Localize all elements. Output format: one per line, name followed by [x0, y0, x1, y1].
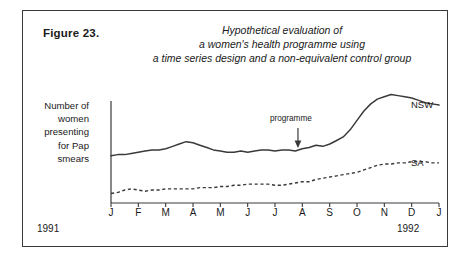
plot-area	[89, 73, 441, 213]
x-axis-tick-label: J	[245, 207, 250, 218]
x-axis-tick-label: O	[353, 207, 361, 218]
x-axis-tick-label: J	[109, 207, 114, 218]
y-axis-label-line-1: Number of	[31, 99, 89, 112]
line-chart-svg	[89, 73, 441, 213]
series-line-nsw	[111, 94, 439, 155]
x-axis-tick-label: S	[326, 207, 333, 218]
series-label-nsw: NSW	[411, 99, 433, 110]
chart-title: Hypothetical evaluation of a women's hea…	[128, 23, 436, 65]
x-axis-year-start: 1991	[37, 223, 59, 234]
x-axis-year-end: 1992	[397, 223, 419, 234]
y-axis-label-line-4: for Pap	[31, 139, 89, 152]
y-axis-label: Number of women presenting for Pap smear…	[31, 99, 89, 165]
figure-frame: Figure 23. Hypothetical evaluation of a …	[22, 10, 448, 247]
y-axis-label-line-5: smears	[31, 152, 89, 165]
figure-label: Figure 23.	[43, 27, 99, 39]
series-label-sa: SA	[411, 157, 424, 168]
x-axis-tick-label: D	[408, 207, 415, 218]
x-axis-tick-labels: JFMAMJJASONDJ	[89, 207, 441, 223]
x-axis-tick-label: F	[135, 207, 141, 218]
chart-title-line-2: a women's health programme using	[128, 37, 436, 51]
x-axis-tick-label: A	[299, 207, 306, 218]
series-line-sa	[111, 162, 439, 194]
programme-annotation-label: programme	[270, 114, 312, 123]
x-axis-tick-label: M	[161, 207, 169, 218]
y-axis-label-line-2: women	[31, 112, 89, 125]
x-axis-tick-label: J	[273, 207, 278, 218]
chart-title-line-1: Hypothetical evaluation of	[128, 23, 436, 37]
chart-title-line-3: a time series design and a non-equivalen…	[128, 51, 436, 65]
x-axis-tick-label: J	[437, 207, 442, 218]
x-axis-tick-label: M	[216, 207, 224, 218]
x-axis-tick-label: N	[381, 207, 388, 218]
x-axis-tick-label: A	[190, 207, 197, 218]
programme-arrow-icon	[295, 128, 302, 148]
y-axis-label-line-3: presenting	[31, 125, 89, 138]
